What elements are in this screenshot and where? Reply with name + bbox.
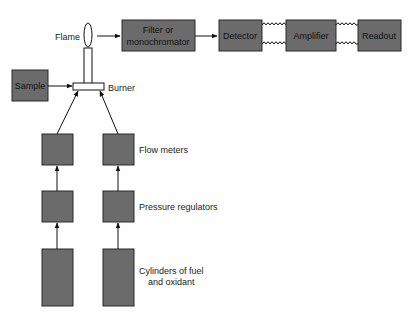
flow-meters-label: Flow meters: [139, 145, 189, 155]
filter-label-line1: Filter or: [143, 25, 174, 35]
oxidant-cylinder-block: [103, 249, 134, 306]
detector-label: Detector: [223, 31, 257, 41]
readout-label: Readout: [362, 31, 397, 41]
fuel-pressure-regulator-block: [42, 191, 73, 222]
amplifier-label: Amplifier: [293, 31, 328, 41]
amplifier-readout-coil-icon: [336, 23, 358, 44]
oxidant-flow-meter-block: [103, 134, 134, 165]
fuel-flow-meter-block: [42, 134, 73, 165]
fuel-flow-to-burner-arrow: [57, 91, 78, 134]
filter-label-line2: monochromator: [126, 37, 189, 47]
pressure-regulators-label: Pressure regulators: [139, 202, 218, 212]
detector-amplifier-coil-icon: [262, 23, 286, 44]
cylinders-label-line1: Cylinders of fuel: [139, 266, 204, 276]
diagram-canvas: Flame Burner Sample Filter or monochroma…: [0, 0, 416, 321]
cylinders-label-line2: and oxidant: [148, 277, 195, 287]
burner: [73, 48, 104, 90]
burner-label: Burner: [108, 83, 135, 93]
fuel-cylinder-block: [42, 249, 73, 306]
oxidant-pressure-regulator-block: [103, 191, 134, 222]
flame-label: Flame: [55, 32, 80, 42]
oxidant-flow-to-burner-arrow: [100, 91, 118, 134]
flame-icon: [84, 23, 92, 47]
sample-label: Sample: [15, 81, 46, 91]
